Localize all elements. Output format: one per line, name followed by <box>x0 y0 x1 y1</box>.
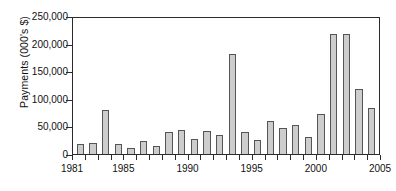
x-axis-tick-mark <box>354 155 355 160</box>
bar <box>317 114 324 154</box>
x-axis-tick-mark <box>303 155 304 160</box>
bar <box>368 108 375 154</box>
bar <box>216 135 223 154</box>
bar-slot <box>264 18 277 154</box>
x-axis-tick-mark <box>149 155 150 160</box>
bar <box>153 146 160 154</box>
x-axis-tick-mark <box>213 155 214 160</box>
y-axis-tick-label: 200,000 <box>32 40 68 50</box>
bar-slot <box>112 18 125 154</box>
x-axis-tick-mark <box>188 155 189 160</box>
bar <box>178 130 185 154</box>
y-axis-tick-mark <box>66 17 72 18</box>
bar-slot <box>289 18 302 154</box>
x-axis-tick-mark <box>111 155 112 160</box>
bar <box>355 89 362 154</box>
x-axis-tick-mark <box>85 155 86 160</box>
y-axis-tick-label: 100,000 <box>32 95 68 105</box>
x-axis-tick-label-group: 198119851990199520002005 <box>0 163 396 179</box>
x-axis-tick-mark <box>98 155 99 160</box>
bar-slot <box>365 18 378 154</box>
y-axis-tick-label: 250,000 <box>32 12 68 22</box>
y-axis-tick-mark <box>66 72 72 73</box>
bar-slot <box>353 18 366 154</box>
x-axis-tick-label: 2005 <box>360 163 396 174</box>
bar <box>77 144 84 154</box>
bar-slot <box>251 18 264 154</box>
bar-slot <box>188 18 201 154</box>
bar <box>102 110 109 154</box>
bar <box>305 137 312 154</box>
x-axis-tick-label: 1981 <box>52 163 92 174</box>
x-axis-tick-mark <box>175 155 176 160</box>
y-axis-tick-mark <box>66 127 72 128</box>
bar-slot <box>277 18 290 154</box>
x-axis-tick-label: 2000 <box>296 163 336 174</box>
bar-chart-figure: Payments (000's $) 050,000100,000150,000… <box>0 0 396 191</box>
x-axis-tick-mark <box>367 155 368 160</box>
y-axis-tick-mark <box>66 45 72 46</box>
bar-slot <box>327 18 340 154</box>
bar-slot <box>137 18 150 154</box>
bar-slot <box>163 18 176 154</box>
bar-slot <box>340 18 353 154</box>
bar <box>115 144 122 154</box>
x-axis-tick-label: 1995 <box>232 163 272 174</box>
bar-slot <box>150 18 163 154</box>
bar <box>343 34 350 154</box>
x-axis-tick-mark <box>329 155 330 160</box>
bar <box>267 121 274 154</box>
bar-slot <box>213 18 226 154</box>
x-axis-tick-mark <box>380 155 381 160</box>
x-axis-tick-label: 1985 <box>103 163 143 174</box>
y-axis-tick-label: 50,000 <box>37 122 68 132</box>
x-axis-tick-mark <box>162 155 163 160</box>
x-axis-tick-mark <box>200 155 201 160</box>
x-axis-tick-mark <box>239 155 240 160</box>
x-axis-tick-mark <box>342 155 343 160</box>
plot-area <box>72 17 380 155</box>
bar <box>191 139 198 154</box>
y-axis-tick-mark <box>66 155 72 156</box>
bar <box>279 128 286 154</box>
bar-slot <box>315 18 328 154</box>
bar-slot <box>302 18 315 154</box>
bar-slot <box>99 18 112 154</box>
bar <box>203 131 210 154</box>
bar <box>127 148 134 154</box>
bar <box>292 125 299 154</box>
x-axis-tick-mark <box>316 155 317 160</box>
x-axis-tick-mark <box>123 155 124 160</box>
bar-slot <box>201 18 214 154</box>
x-axis-tick-mark <box>226 155 227 160</box>
x-axis-tick-label: 1990 <box>168 163 208 174</box>
x-axis-tick-mark <box>72 155 73 160</box>
bar-slot <box>87 18 100 154</box>
bar <box>140 141 147 154</box>
bar <box>254 140 261 154</box>
x-axis-tick-mark-group <box>72 155 380 161</box>
bar-slot <box>226 18 239 154</box>
x-axis-tick-mark <box>136 155 137 160</box>
bar <box>241 132 248 154</box>
bar-slot <box>175 18 188 154</box>
bar-slot <box>125 18 138 154</box>
x-axis-tick-mark <box>277 155 278 160</box>
bar <box>330 34 337 154</box>
y-axis-tick-mark <box>66 100 72 101</box>
bar <box>89 143 96 154</box>
bar <box>229 54 236 154</box>
bar <box>165 132 172 154</box>
x-axis-tick-mark <box>290 155 291 160</box>
x-axis-tick-mark <box>265 155 266 160</box>
y-axis-tick-label: 150,000 <box>32 67 68 77</box>
bar-slot <box>74 18 87 154</box>
x-axis-tick-mark <box>252 155 253 160</box>
bar-slot <box>239 18 252 154</box>
bars-layer <box>73 18 379 154</box>
